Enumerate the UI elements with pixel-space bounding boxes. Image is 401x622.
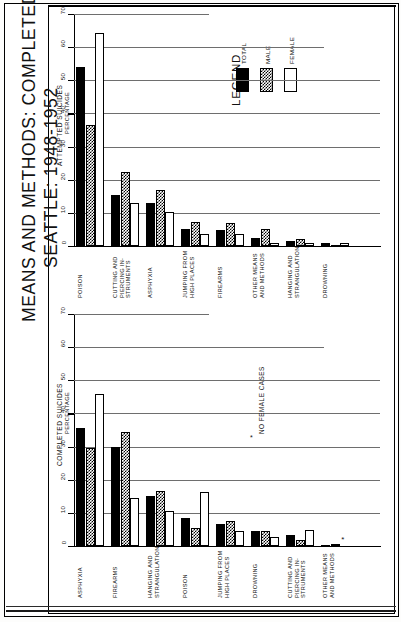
y-axis-sublabel: PERCENTAGE xyxy=(64,392,70,434)
bar-completed-4-female xyxy=(235,531,244,546)
x-category-label-0: POISON xyxy=(77,274,84,298)
bar-attempted-3-total xyxy=(181,229,190,246)
bar-completed-6-female xyxy=(305,530,314,546)
gridline-70 xyxy=(74,14,209,15)
bar-attempted-4-total xyxy=(216,230,225,246)
y-tick-label-10: 10 xyxy=(44,206,66,213)
bar-completed-0-total xyxy=(76,428,85,546)
bar-attempted-4-female xyxy=(235,234,244,246)
bottom-rule-secondary xyxy=(6,610,396,612)
gridline-40 xyxy=(74,413,380,414)
bar-attempted-4-male xyxy=(226,223,235,246)
x-category-label-4: JUMPING FROMHIGH PLACES xyxy=(217,551,230,598)
bar-attempted-3-male xyxy=(191,222,200,246)
bar-attempted-0-female xyxy=(95,33,104,246)
footnote-asterisk: * xyxy=(250,434,253,441)
x-category-label-5: OTHER MEANSAND METHODS xyxy=(252,253,265,298)
gridline-30 xyxy=(74,147,380,148)
x-category-label-3: POISON xyxy=(182,574,189,598)
bar-completed-3-total xyxy=(181,518,190,546)
y-tick-label-50: 50 xyxy=(44,373,66,380)
chart-attempted-suicides: LEGEND TOTALMALEFEMALE 010203040506070AT… xyxy=(52,6,396,306)
x-category-label-7: DROWNING xyxy=(322,264,329,299)
bar-completed-3-male xyxy=(191,528,200,546)
bar-attempted-7-male xyxy=(331,245,340,247)
bar-completed-6-total xyxy=(286,535,295,546)
x-category-label-4: FIREARMS xyxy=(217,266,224,298)
y-tick-label-20: 20 xyxy=(44,473,66,480)
bar-attempted-0-total xyxy=(76,67,85,246)
gridline-50 xyxy=(74,380,380,381)
bar-attempted-5-total xyxy=(251,238,260,246)
y-tick-20 xyxy=(68,480,74,481)
gridline-60 xyxy=(74,347,324,348)
bar-completed-4-male xyxy=(226,521,235,546)
x-category-label-6: HANGING ANDSTRANGULATION xyxy=(287,246,300,298)
y-tick-label-0: 0 xyxy=(44,239,66,246)
x-category-label-5: DROWNING xyxy=(252,564,259,599)
gridline-40 xyxy=(74,113,380,114)
bar-completed-4-total xyxy=(216,524,225,546)
y-tick-label-60: 60 xyxy=(44,40,66,47)
no-data-asterisk: * xyxy=(341,536,344,544)
footnote-text: NO FEMALE CASES xyxy=(258,366,265,434)
chart-completed-suicides: 010203040506070COMPLETED SUICIDESPERCENT… xyxy=(52,306,396,606)
bar-attempted-1-female xyxy=(130,203,139,246)
bar-attempted-5-male xyxy=(261,229,270,246)
bar-completed-2-male xyxy=(156,491,165,546)
bar-completed-6-male xyxy=(296,540,305,546)
x-category-label-1: FIREARMS xyxy=(112,566,119,598)
bar-completed-7-male xyxy=(331,544,340,546)
y-tick-50 xyxy=(68,380,74,381)
y-tick-60 xyxy=(68,47,74,48)
y-tick-label-70: 70 xyxy=(44,7,66,14)
y-axis-label: ATTEMPTED SUICIDES xyxy=(56,85,63,166)
bar-completed-1-female xyxy=(130,498,139,546)
bar-attempted-6-male xyxy=(296,239,305,246)
bar-completed-3-female xyxy=(200,492,209,546)
legend-label-female: FEMALE xyxy=(288,37,295,64)
y-tick-10 xyxy=(68,513,74,514)
bar-completed-5-male xyxy=(261,531,270,546)
gridline-70 xyxy=(74,314,209,315)
legend-label-total: TOTAL xyxy=(240,43,247,64)
figure-title-line1: MEANS AND METHODS: COMPLETED AND ATTEMPT… xyxy=(19,0,40,322)
x-category-label-3: JUMPING FROMHIGH PLACES xyxy=(182,251,195,298)
bar-attempted-7-female xyxy=(340,243,349,246)
bar-completed-5-female xyxy=(270,537,279,546)
gridline-50 xyxy=(74,80,380,81)
y-tick-70 xyxy=(68,314,74,315)
y-tick-20 xyxy=(68,180,74,181)
x-category-label-2: HANGING ANDSTRANGULATION xyxy=(147,546,160,598)
bar-completed-1-total xyxy=(111,447,120,546)
y-tick-label-50: 50 xyxy=(44,73,66,80)
y-tick-30 xyxy=(68,147,74,148)
y-tick-60 xyxy=(68,347,74,348)
bar-attempted-6-female xyxy=(305,243,314,246)
y-tick-0 xyxy=(68,546,74,547)
y-tick-label-20: 20 xyxy=(44,173,66,180)
y-tick-30 xyxy=(68,447,74,448)
x-category-label-7: OTHER MEANSAND METHODS xyxy=(322,553,335,598)
bar-attempted-3-female xyxy=(200,234,209,246)
y-axis-sublabel: PERCENTAGE xyxy=(64,92,70,134)
legend-label-male: MALE xyxy=(264,46,271,64)
y-tick-label-10: 10 xyxy=(44,506,66,513)
bar-attempted-2-male xyxy=(156,190,165,246)
bar-completed-1-male xyxy=(121,432,130,546)
bar-completed-2-female xyxy=(165,511,174,546)
bottom-rule xyxy=(6,606,396,607)
bar-completed-2-total xyxy=(146,496,155,546)
x-category-label-2: ASPHYXIA xyxy=(147,267,154,298)
y-tick-50 xyxy=(68,80,74,81)
bar-attempted-2-total xyxy=(146,203,155,246)
bar-completed-7-total xyxy=(321,545,330,547)
bar-completed-5-total xyxy=(251,531,260,546)
gridline-60 xyxy=(74,47,324,48)
y-tick-70 xyxy=(68,14,74,15)
y-tick-label-0: 0 xyxy=(44,539,66,546)
figure-page: MEANS AND METHODS: COMPLETED AND ATTEMPT… xyxy=(0,0,401,622)
y-axis-label: COMPLETED SUICIDES xyxy=(56,383,63,466)
y-tick-label-70: 70 xyxy=(44,307,66,314)
y-tick-0 xyxy=(68,246,74,247)
